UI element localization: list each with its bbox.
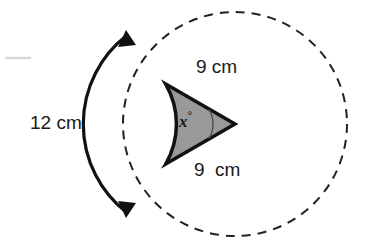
geometry-figure: 9 cm 9 cm 12 cm x° — [0, 0, 369, 246]
radius-label-bottom: 9 cm — [194, 160, 240, 179]
arc-length-measure-line — [83, 36, 126, 212]
arc-length-label: 12 cm — [30, 113, 82, 132]
radius-label-top: 9 cm — [196, 57, 237, 76]
angle-label: x° — [179, 110, 192, 130]
angle-variable: x — [179, 112, 188, 131]
degree-symbol: ° — [188, 109, 193, 123]
shaded-sector — [166, 84, 235, 164]
